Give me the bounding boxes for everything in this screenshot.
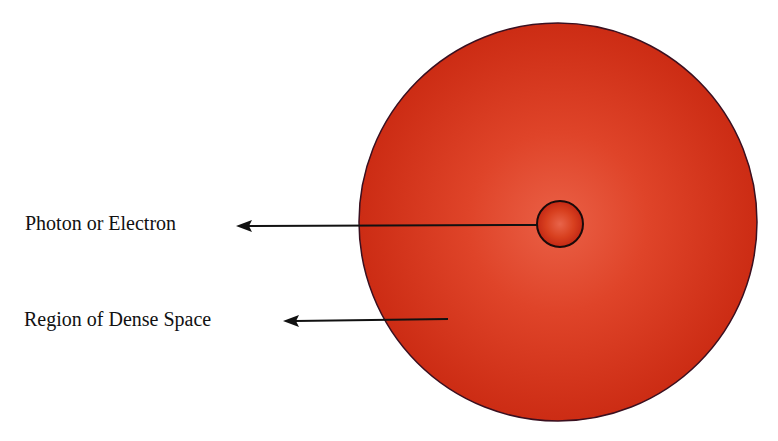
- photon-or-electron-label: Photon or Electron: [25, 213, 176, 233]
- photon-particle: [537, 201, 583, 247]
- photon-arrow: [248, 225, 537, 226]
- region-of-dense-space-label: Region of Dense Space: [24, 309, 211, 329]
